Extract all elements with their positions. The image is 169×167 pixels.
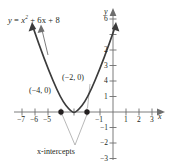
point-dot-minus2 (84, 109, 89, 114)
x-tick-label-2: 2 (137, 116, 141, 124)
y-tick-label--2: −2 (100, 139, 108, 147)
parabola-figure: y = x2 + 6x + 8 (−4, 0) (−2, 0) x-interc… (0, 0, 169, 167)
equation-label: y = x2 + 6x + 8 (8, 15, 60, 24)
y-tick-label-6: 6 (104, 15, 108, 23)
leader-to-left-intercept (62, 113, 76, 145)
point-dot-minus4 (58, 109, 63, 114)
y-tick-label--3: −3 (100, 155, 108, 163)
y-tick-label-2: 4 (104, 77, 108, 85)
y-axis-arrowhead (110, 8, 117, 16)
caption-leader-lines (62, 113, 88, 145)
x-axis-label: x (158, 113, 162, 121)
y-tick-label-4: 2 (104, 46, 108, 54)
y-tick-label--1: −1 (100, 124, 108, 132)
equation-lhs: y (8, 15, 12, 25)
y-tick-label-1: 1 (104, 93, 108, 101)
point-label-minus4: (−4, 0) (29, 87, 51, 95)
equation-equals: = (14, 15, 19, 25)
y-tick-label-3: 3 (104, 62, 108, 70)
x-tick-label--7: −7 (17, 116, 25, 124)
coordinate-plane (0, 0, 169, 167)
equation-leader-arrow (38, 25, 48, 56)
leader-to-right-intercept (75, 113, 88, 145)
x-intercepts-caption: x-intercepts (37, 148, 75, 156)
point-label-minus2: (−2, 0) (62, 74, 84, 82)
x-tick-label--5: −5 (43, 116, 51, 124)
x-tick-label--6: −6 (30, 116, 38, 124)
x-tick-label-3: 3 (150, 116, 154, 124)
parabola-curve (33, 28, 114, 113)
x-tick-label-1: 1 (124, 116, 128, 124)
equation-rest: + 6x + 8 (30, 15, 60, 25)
equation-exponent: 2 (25, 14, 28, 20)
